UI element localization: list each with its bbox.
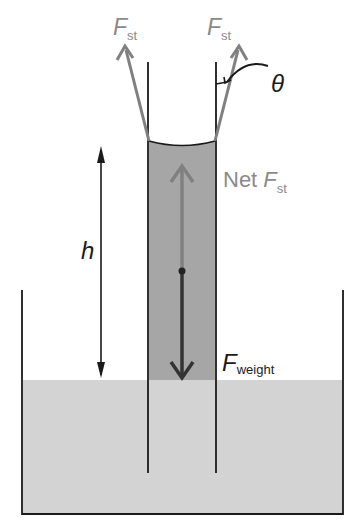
center-of-mass-dot bbox=[179, 268, 186, 275]
theta-label: θ bbox=[271, 70, 284, 97]
net-fst-label: Net Fst bbox=[223, 167, 287, 196]
reservoir-water bbox=[23, 380, 343, 514]
theta-indicator bbox=[216, 64, 268, 84]
weight-label: Fweight bbox=[222, 349, 275, 377]
fst-left-label: Fst bbox=[113, 14, 138, 43]
fst-arrow-right bbox=[215, 46, 247, 141]
h-label: h bbox=[81, 237, 94, 264]
height-dimension-arrow bbox=[97, 146, 105, 378]
capillary-diagram: Fst Fst θ Net Fst h Fweight bbox=[0, 0, 352, 526]
fst-right-label: Fst bbox=[207, 14, 232, 43]
fst-arrow-left bbox=[117, 46, 149, 141]
